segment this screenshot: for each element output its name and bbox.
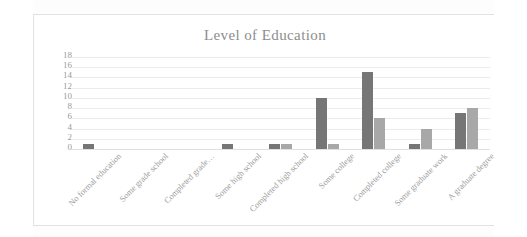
- bar-group: [443, 57, 490, 149]
- bar: [421, 129, 432, 149]
- bar: [467, 108, 478, 149]
- bar: [455, 113, 466, 149]
- x-label: No formal education: [67, 151, 124, 208]
- x-label: A graduate degree: [445, 151, 496, 202]
- bar: [269, 144, 280, 149]
- page-margin-left: [0, 0, 33, 237]
- x-label: Completed grade…: [162, 151, 216, 205]
- bar: [328, 144, 339, 149]
- x-label: Some grade school: [117, 151, 170, 204]
- chart-screenshot: Level of Education 181614121086420 No fo…: [0, 0, 527, 237]
- plot-area: [71, 57, 490, 149]
- x-label: Completed college: [350, 151, 402, 203]
- y-axis-tick-labels: 181614121086420: [54, 55, 72, 151]
- bar: [316, 98, 327, 149]
- x-label: Some college: [316, 151, 356, 191]
- bar-group: [397, 57, 444, 149]
- bar-group: [350, 57, 397, 149]
- bar-group: [304, 57, 351, 149]
- bar-group: [211, 57, 258, 149]
- bar-group: [71, 57, 118, 149]
- bar: [83, 144, 94, 149]
- bar-group: [164, 57, 211, 149]
- x-label: Some high school: [213, 151, 263, 201]
- bar: [374, 118, 385, 149]
- chart-title: Level of Education: [34, 27, 496, 44]
- bar: [362, 72, 373, 149]
- gridline-0: [71, 149, 490, 150]
- bar: [222, 144, 233, 149]
- x-axis-category-labels: No formal educationSome grade schoolComp…: [71, 151, 501, 237]
- bar-group: [257, 57, 304, 149]
- bar-group: [118, 57, 165, 149]
- bar: [281, 144, 292, 149]
- chart-frame: Level of Education 181614121086420 No fo…: [33, 14, 497, 226]
- bar: [409, 144, 420, 149]
- bars-layer: [71, 57, 490, 149]
